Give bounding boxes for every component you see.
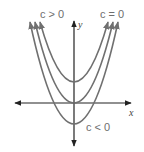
label-c-negative: c < 0 [86,121,110,133]
y-axis-label: y [77,19,83,30]
parabola-diagram: c > 0 c = 0 c < 0 y x [0,0,144,152]
x-axis-label: x [128,107,134,118]
label-c-positive: c > 0 [40,8,64,20]
label-c-zero: c = 0 [100,8,124,20]
